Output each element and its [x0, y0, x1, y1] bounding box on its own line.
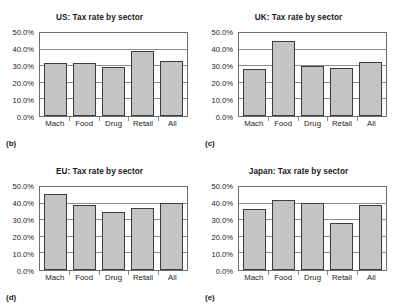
bar-slot — [128, 33, 157, 116]
y-axis-tick-labels: 0.0%10.0%20.0%30.0%40.0%50.0% — [199, 186, 235, 271]
x-axis-category-label: Drug — [99, 273, 128, 282]
chart-panel-d: EU: Tax rate by sector0.0%10.0%20.0%30.0… — [0, 154, 199, 308]
bar — [359, 62, 381, 116]
bar — [44, 63, 66, 116]
bar-slot — [356, 187, 385, 270]
plot-area — [39, 32, 188, 117]
bar — [44, 194, 66, 270]
y-axis-tick-label: 20.0% — [12, 233, 34, 242]
bar-slot — [356, 33, 385, 116]
x-axis-category-label: All — [357, 119, 386, 128]
y-axis-tick-label: 0.0% — [17, 113, 34, 122]
x-axis-category-label: Drug — [298, 273, 327, 282]
y-axis-tick-label: 40.0% — [12, 199, 34, 208]
bar-slot — [269, 33, 298, 116]
panel-letter: (b) — [6, 139, 16, 148]
y-axis-tick-label: 0.0% — [216, 267, 233, 276]
y-axis-tick-label: 50.0% — [12, 28, 34, 37]
bar — [272, 200, 294, 270]
x-axis-category-label: Food — [69, 119, 98, 128]
bar-series — [239, 187, 386, 270]
panel-title: Japan: Tax rate by sector — [199, 167, 398, 176]
bar-slot — [327, 33, 356, 116]
bar — [73, 63, 95, 116]
bar-slot — [99, 187, 128, 270]
x-axis-category-labels: MachFoodDrugRetailAll — [238, 119, 387, 128]
y-axis-tick-label: 30.0% — [12, 62, 34, 71]
x-axis-category-label: All — [158, 273, 187, 282]
panel-letter: (d) — [6, 293, 16, 302]
y-axis-tick-label: 10.0% — [12, 250, 34, 259]
x-axis-category-label: Retail — [327, 273, 356, 282]
bar-slot — [298, 33, 327, 116]
bar-slot — [70, 187, 99, 270]
bar — [330, 68, 352, 116]
bar-series — [40, 33, 187, 116]
plot-area — [238, 186, 387, 271]
y-axis-tick-label: 30.0% — [211, 62, 233, 71]
chart-panel-e: Japan: Tax rate by sector0.0%10.0%20.0%3… — [199, 154, 398, 308]
x-axis-category-label: Drug — [298, 119, 327, 128]
y-axis-tick-label: 50.0% — [211, 182, 233, 191]
bar-slot — [128, 187, 157, 270]
plot-area — [238, 32, 387, 117]
bar-series — [40, 187, 187, 270]
plot-area — [39, 186, 188, 271]
bar — [131, 208, 153, 270]
x-axis-category-label: Mach — [40, 273, 69, 282]
x-axis-category-label: All — [158, 119, 187, 128]
bar — [160, 61, 182, 116]
x-axis-category-labels: MachFoodDrugRetailAll — [238, 273, 387, 282]
y-axis-tick-labels: 0.0%10.0%20.0%30.0%40.0%50.0% — [0, 186, 36, 271]
panel-title: EU: Tax rate by sector — [0, 167, 199, 176]
bar-slot — [269, 187, 298, 270]
y-axis-tick-label: 50.0% — [12, 182, 34, 191]
bar-slot — [298, 187, 327, 270]
x-axis-category-label: Mach — [239, 119, 268, 128]
y-axis-tick-label: 30.0% — [211, 216, 233, 225]
bar — [73, 205, 95, 270]
bar-slot — [99, 33, 128, 116]
panel-letter: (c) — [205, 139, 215, 148]
y-axis-tick-labels: 0.0%10.0%20.0%30.0%40.0%50.0% — [0, 32, 36, 117]
y-axis-tick-label: 10.0% — [12, 96, 34, 105]
bar-slot — [70, 33, 99, 116]
bar — [102, 212, 124, 270]
bar-slot — [240, 33, 269, 116]
x-axis-category-label: Mach — [40, 119, 69, 128]
bar — [301, 66, 323, 116]
bar-slot — [240, 187, 269, 270]
x-axis-category-label: Retail — [327, 119, 356, 128]
chart-panel-b: US: Tax rate by sector0.0%10.0%20.0%30.0… — [0, 0, 199, 154]
y-axis-tick-label: 40.0% — [12, 45, 34, 54]
bar-slot — [157, 187, 186, 270]
y-axis-tick-label: 0.0% — [216, 113, 233, 122]
panel-letter: (e) — [205, 293, 215, 302]
y-axis-tick-label: 40.0% — [211, 199, 233, 208]
y-axis-tick-label: 50.0% — [211, 28, 233, 37]
bar — [301, 203, 323, 270]
bar-slot — [41, 33, 70, 116]
panel-title: US: Tax rate by sector — [0, 13, 199, 22]
bar-slot — [41, 187, 70, 270]
x-axis-category-label: Retail — [128, 273, 157, 282]
x-axis-category-label: Food — [268, 273, 297, 282]
y-axis-tick-label: 20.0% — [211, 79, 233, 88]
x-axis-category-labels: MachFoodDrugRetailAll — [39, 119, 188, 128]
y-axis-tick-label: 20.0% — [211, 233, 233, 242]
x-axis-category-label: Food — [69, 273, 98, 282]
bar-slot — [327, 187, 356, 270]
bar — [359, 205, 381, 270]
x-axis-category-label: Retail — [128, 119, 157, 128]
bar — [272, 41, 294, 116]
y-axis-tick-label: 0.0% — [17, 267, 34, 276]
bar-series — [239, 33, 386, 116]
x-axis-category-label: Drug — [99, 119, 128, 128]
y-axis-tick-label: 20.0% — [12, 79, 34, 88]
chart-panel-c: UK: Tax rate by sector0.0%10.0%20.0%30.0… — [199, 0, 398, 154]
y-axis-tick-label: 40.0% — [211, 45, 233, 54]
x-axis-category-labels: MachFoodDrugRetailAll — [39, 273, 188, 282]
bar — [330, 223, 352, 270]
bar — [102, 67, 124, 116]
y-axis-tick-labels: 0.0%10.0%20.0%30.0%40.0%50.0% — [199, 32, 235, 117]
